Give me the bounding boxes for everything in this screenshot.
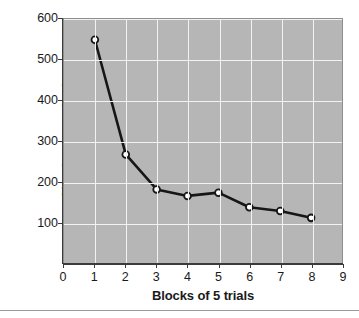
gridline-vertical xyxy=(126,19,127,263)
x-tick-mark xyxy=(94,264,95,268)
gridline-horizontal xyxy=(64,183,342,184)
x-tick-label: 6 xyxy=(238,270,262,284)
data-series-line xyxy=(64,19,342,263)
x-axis-line xyxy=(63,263,343,265)
gridline-vertical xyxy=(188,19,189,263)
x-tick-label: 8 xyxy=(300,270,324,284)
data-point-marker xyxy=(215,189,222,196)
x-tick-mark xyxy=(312,264,313,268)
y-tick-mark xyxy=(58,141,63,142)
gridline-vertical xyxy=(282,19,283,263)
y-tick-label: 100 xyxy=(22,216,58,230)
gridline-vertical xyxy=(95,19,96,263)
x-tick-label: 5 xyxy=(207,270,231,284)
x-tick-label: 9 xyxy=(331,270,355,284)
x-axis-title: Blocks of 5 trials xyxy=(63,288,343,303)
gridline-vertical xyxy=(157,19,158,263)
x-tick-mark xyxy=(219,264,220,268)
x-tick-label: 0 xyxy=(51,270,75,284)
x-tick-mark xyxy=(63,264,64,268)
y-tick-mark xyxy=(58,223,63,224)
y-tick-mark xyxy=(58,100,63,101)
gridline-horizontal xyxy=(64,224,342,225)
gridline-vertical xyxy=(313,19,314,263)
y-tick-label: 200 xyxy=(22,175,58,189)
x-tick-mark xyxy=(187,264,188,268)
x-tick-mark xyxy=(156,264,157,268)
gridline-vertical xyxy=(251,19,252,263)
y-tick-label: 300 xyxy=(22,134,58,148)
x-tick-mark xyxy=(250,264,251,268)
y-tick-mark xyxy=(58,182,63,183)
gridline-vertical xyxy=(220,19,221,263)
y-tick-label: 400 xyxy=(22,93,58,107)
x-tick-mark xyxy=(125,264,126,268)
y-tick-mark xyxy=(58,18,63,19)
x-tick-label: 2 xyxy=(113,270,137,284)
x-tick-mark xyxy=(343,264,344,268)
x-tick-mark xyxy=(281,264,282,268)
chart-figure: Absolute error (ms) 100200300400500600 0… xyxy=(0,0,359,318)
gridline-horizontal xyxy=(64,101,342,102)
y-tick-mark xyxy=(58,59,63,60)
x-tick-label: 1 xyxy=(82,270,106,284)
gridline-horizontal xyxy=(64,19,342,20)
x-tick-label: 3 xyxy=(144,270,168,284)
bottom-divider xyxy=(0,310,359,311)
gridline-horizontal xyxy=(64,142,342,143)
series-polyline xyxy=(95,40,311,218)
x-tick-label: 4 xyxy=(175,270,199,284)
plot-area xyxy=(63,18,343,264)
y-tick-label: 600 xyxy=(22,11,58,25)
gridline-horizontal xyxy=(64,60,342,61)
y-tick-label: 500 xyxy=(22,52,58,66)
data-point-marker xyxy=(246,204,253,211)
x-tick-label: 7 xyxy=(269,270,293,284)
